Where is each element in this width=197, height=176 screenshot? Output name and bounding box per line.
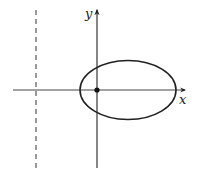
origin-focus-point — [94, 87, 99, 92]
x-axis-label: x — [179, 92, 187, 107]
y-axis-label: y — [84, 6, 93, 21]
diagram-canvas: y x — [0, 0, 197, 176]
